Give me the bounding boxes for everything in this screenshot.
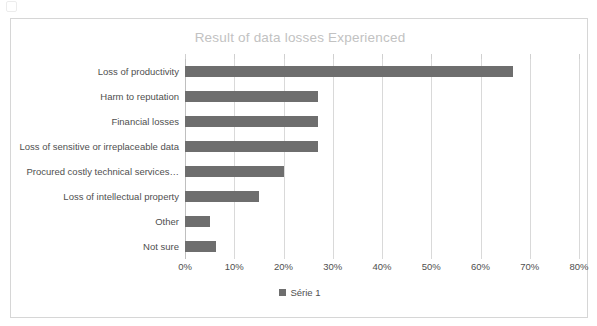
bar: [185, 66, 513, 77]
x-tick-label: 70%: [520, 261, 539, 272]
bar-row: [185, 234, 579, 259]
x-tick-label: 60%: [471, 261, 490, 272]
bar-row: [185, 109, 579, 134]
x-tick-label: 10%: [225, 261, 244, 272]
bar-row: [185, 184, 579, 209]
bar-series: [185, 59, 579, 259]
bar: [185, 216, 210, 227]
bar-row: [185, 84, 579, 109]
x-tick-label: 30%: [323, 261, 342, 272]
x-tick-label: 0%: [178, 261, 192, 272]
bar: [185, 166, 284, 177]
chart-legend: Série 1: [11, 287, 589, 298]
bar: [185, 141, 318, 152]
bar-row: [185, 209, 579, 234]
category-label: Loss of intellectual property: [63, 184, 179, 209]
x-tick-label: 50%: [422, 261, 441, 272]
bar-row: [185, 159, 579, 184]
category-label: Loss of sensitive or irreplaceable data: [20, 134, 179, 159]
category-label: Not sure: [143, 234, 179, 259]
plot-area: [185, 59, 579, 259]
bar: [185, 191, 259, 202]
x-axis-tick-labels: 0%10%20%30%40%50%60%70%80%: [185, 261, 579, 277]
bar: [185, 241, 216, 252]
x-tick-label: 20%: [274, 261, 293, 272]
x-tick-label: 80%: [569, 261, 588, 272]
y-axis-category-labels: Loss of productivityHarm to reputationFi…: [11, 59, 183, 259]
legend-label-serie-1: Série 1: [290, 287, 320, 298]
category-label: Procured costly technical services…: [26, 159, 179, 184]
category-label: Other: [155, 209, 179, 234]
chart-title: Result of data losses Experienced: [11, 30, 589, 45]
scan-artifact: [6, 1, 17, 12]
category-label: Harm to reputation: [100, 84, 179, 109]
chart-container: Result of data losses Experienced Loss o…: [10, 18, 588, 318]
bar-row: [185, 59, 579, 84]
bar: [185, 91, 318, 102]
x-tick-label: 40%: [372, 261, 391, 272]
category-label: Financial losses: [111, 109, 179, 134]
bar-row: [185, 134, 579, 159]
legend-swatch-serie-1: [279, 289, 286, 296]
gridline-80%: [579, 59, 580, 259]
tickmark-80%: [579, 54, 580, 59]
bar: [185, 116, 318, 127]
category-label: Loss of productivity: [98, 59, 179, 84]
